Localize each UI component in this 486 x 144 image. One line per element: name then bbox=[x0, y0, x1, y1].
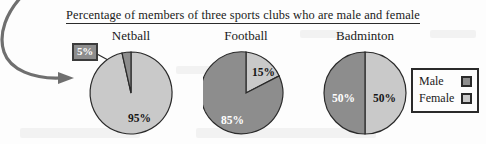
pie-title-netball: Netball bbox=[76, 28, 186, 44]
chart-legend: Male Female bbox=[411, 68, 479, 113]
pie-value-netball-female: 95% bbox=[128, 112, 151, 124]
legend-label-male: Male bbox=[419, 74, 444, 89]
chart-figure: Percentage of members of three sports cl… bbox=[0, 0, 486, 144]
pie-value-football-female: 15% bbox=[252, 66, 275, 78]
pie-value-badminton-female: 50% bbox=[373, 92, 396, 104]
legend-label-female: Female bbox=[419, 91, 454, 106]
pie-value-football-male: 85% bbox=[221, 114, 244, 126]
pie-title-football: Football bbox=[191, 28, 301, 44]
pie-value-badminton-male: 50% bbox=[332, 92, 355, 104]
pie-value-netball-male: 5% bbox=[72, 43, 98, 61]
legend-swatch-male bbox=[461, 76, 472, 87]
pie-football-graphic bbox=[203, 50, 289, 136]
legend-swatch-female bbox=[461, 93, 472, 104]
legend-item-female: Female bbox=[419, 90, 472, 107]
pie-title-badminton: Badminton bbox=[310, 28, 420, 44]
legend-item-male: Male bbox=[419, 73, 472, 90]
